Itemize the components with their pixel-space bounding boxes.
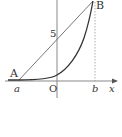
curve <box>8 1 93 80</box>
label-tick-a: a <box>14 84 20 94</box>
label-point-a: A <box>10 68 18 79</box>
label-point-b: B <box>96 0 104 11</box>
label-x-axis: x <box>109 84 115 94</box>
function-graph <box>0 0 122 137</box>
chord-ab <box>19 1 93 80</box>
label-tick-b: b <box>92 84 98 94</box>
label-origin: O <box>49 84 57 94</box>
label-y-intercept: 5 <box>50 29 56 39</box>
